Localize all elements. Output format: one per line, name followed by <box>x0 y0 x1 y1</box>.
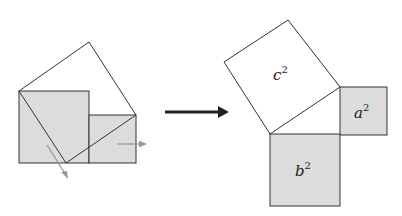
left-b-square <box>19 91 89 163</box>
c-square <box>224 20 340 134</box>
pythagorean-diagram: c2 a2 b2 <box>0 0 402 216</box>
right-figure: c2 a2 b2 <box>224 20 387 206</box>
right-arrow-icon <box>165 106 229 118</box>
left-a-square <box>89 115 136 163</box>
left-figure <box>19 42 147 179</box>
